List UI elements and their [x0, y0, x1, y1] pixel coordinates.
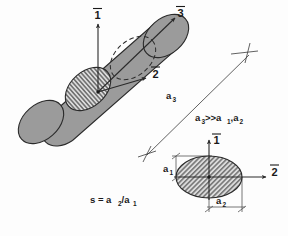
sf-sub-den: 1 — [133, 200, 137, 207]
dim-a1-label: a 1 — [163, 163, 174, 176]
axis-2-text: 2 — [152, 68, 158, 80]
a1-base: a — [163, 163, 169, 174]
a3-end-marker-upper — [231, 43, 258, 63]
a2-sub: 2 — [223, 201, 227, 208]
a3-dimension-line — [147, 55, 249, 155]
cs-axis-1-label: 1 — [212, 134, 221, 146]
sf-lhs: s = a — [90, 194, 112, 205]
axis-3-text: 3 — [177, 7, 183, 19]
technical-figure: 1 3 2 a 3 a 3 >>a 1 ,a 2 — [0, 0, 288, 236]
ineq-comma: ,a — [231, 112, 240, 123]
a3-label-sub: 3 — [173, 96, 177, 103]
cs-axis-2-label: 2 — [270, 165, 279, 178]
sf-slash: /a — [122, 194, 131, 205]
a2-base: a — [216, 195, 222, 206]
ineq-op: >>a — [205, 112, 222, 123]
cs-origin-dot — [207, 175, 210, 178]
ineq-a: a — [195, 112, 201, 123]
inequality-annotation: a 3 >>a 1 ,a 2 — [195, 112, 244, 125]
axis-1-text: 1 — [94, 9, 100, 21]
shape-factor-annotation: s = a 2 /a 1 — [90, 194, 137, 207]
origin-dot — [96, 90, 99, 93]
a1-sub: 1 — [170, 169, 174, 176]
cylinder-axis-1-label: 1 — [93, 9, 102, 22]
fiber-cylinder — [10, 6, 197, 153]
ellipse-cross-section: 1 2 a 1 a 2 — [163, 134, 279, 212]
dim-a2-label: a 2 — [216, 195, 227, 208]
a3-label-base: a — [166, 90, 172, 101]
ineq-sub3: 2 — [240, 118, 244, 125]
cs-axis-1-text: 1 — [213, 134, 219, 146]
cs-axis-2-text: 2 — [271, 166, 277, 178]
cylinder-axis-2-label: 2 — [151, 67, 160, 80]
a3-label: a 3 — [166, 90, 177, 103]
